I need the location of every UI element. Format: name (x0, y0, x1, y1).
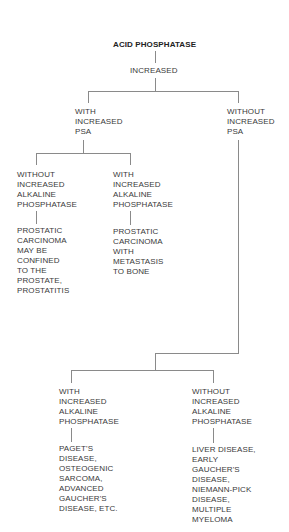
connector-root-to-increased (155, 51, 156, 63)
connector-increased-down (155, 78, 156, 91)
node-with-psa-without-alk-phos: WITHOUT INCREASED ALKALINE PHOSPHATASE (17, 170, 77, 210)
node-without-increased-psa: WITHOUT INCREASED PSA (227, 107, 275, 137)
result-prostatic-carcinoma-confined: PROSTATIC CARCINOMA MAY BE CONFINED TO T… (17, 226, 69, 296)
connector-to-without-psa-child-1 (213, 370, 214, 383)
connector-to-with-psa-child-1 (130, 153, 131, 165)
result-prostatic-carcinoma-metastasis: PROSTATIC CARCINOMA WITH METASTASIS TO B… (113, 227, 164, 277)
node-increased: INCREASED (130, 66, 178, 76)
node-with-increased-psa: WITH INCREASED PSA (75, 107, 123, 137)
connector-with-psa-child-0-result (36, 211, 37, 224)
connector-to-with-psa-child-0 (36, 153, 37, 165)
node-without-psa-without-alk-phos: WITHOUT INCREASED ALKALINE PHOSPHATASE (192, 387, 252, 427)
connector-without-psa-child-0-result (71, 428, 72, 442)
connector-with-psa-down (83, 140, 84, 153)
connector-without-psa-child-1-result (213, 428, 214, 443)
connector-to-without-psa (238, 91, 239, 103)
node-without-psa-with-alk-phos: WITH INCREASED ALKALINE PHOSPHATASE (59, 387, 119, 427)
root-node-acid-phosphatase: ACID PHOSPHATASE (113, 40, 196, 50)
connector-psa-split (88, 91, 239, 92)
connector-to-with-psa (88, 91, 89, 103)
connector-without-psa-drop (155, 353, 156, 370)
connector-with-psa-split (36, 153, 131, 154)
connector-without-psa-down (238, 140, 239, 354)
connector-without-psa-elbow (155, 353, 239, 354)
result-pagets-disease: PAGET'S DISEASE, OSTEOGENIC SARCOMA, ADV… (59, 444, 118, 514)
result-liver-disease: LIVER DISEASE, EARLY GAUCHER'S DISEASE, … (192, 445, 256, 525)
connector-with-psa-child-1-result (130, 211, 131, 225)
connector-without-psa-split (71, 370, 214, 371)
connector-to-without-psa-child-0 (71, 370, 72, 383)
node-with-psa-with-alk-phos: WITH INCREASED ALKALINE PHOSPHATASE (113, 170, 173, 210)
